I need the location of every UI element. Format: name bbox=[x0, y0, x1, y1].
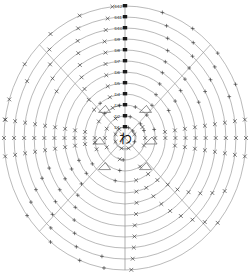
polar-chart-canvas: D1D2D3D4D5D6D7D8D9D10D11D12 わ bbox=[0, 0, 250, 276]
marker-+ bbox=[74, 245, 78, 249]
tick-marker-D2 bbox=[123, 114, 127, 117]
marker-x bbox=[127, 146, 131, 150]
marker-+ bbox=[167, 109, 171, 113]
marker-+ bbox=[209, 78, 213, 82]
tick-label-D1: D1 bbox=[115, 125, 121, 130]
marker-+ bbox=[234, 82, 238, 86]
marker-+ bbox=[90, 162, 94, 166]
marker-+ bbox=[113, 179, 117, 183]
marker-+ bbox=[63, 177, 67, 181]
marker-x bbox=[76, 39, 80, 43]
marker-x bbox=[47, 48, 51, 52]
marker-x bbox=[23, 62, 27, 66]
marker-x bbox=[105, 127, 109, 131]
marker-+ bbox=[197, 100, 201, 104]
marker-x bbox=[49, 32, 53, 36]
marker-+ bbox=[163, 60, 167, 64]
marker-x bbox=[210, 191, 214, 195]
marker-+ bbox=[100, 254, 104, 258]
tick-label-D9: D9 bbox=[115, 37, 121, 42]
marker-+ bbox=[73, 231, 77, 235]
tick-marker-D4 bbox=[123, 92, 127, 95]
marker-x bbox=[168, 209, 172, 213]
tick-label-D11: D11 bbox=[115, 15, 123, 20]
marker-x bbox=[203, 220, 207, 224]
polar-chart: D1D2D3D4D5D6D7D8D9D10D11D12 わ bbox=[0, 0, 250, 276]
marker-+ bbox=[203, 90, 207, 94]
tick-marker-D7 bbox=[123, 59, 127, 62]
marker-x bbox=[76, 51, 80, 55]
tick-marker-D5 bbox=[123, 81, 127, 84]
marker-x bbox=[156, 178, 160, 182]
marker-x bbox=[198, 191, 202, 195]
tick-label-D6: D6 bbox=[115, 70, 121, 75]
marker-+ bbox=[166, 49, 170, 53]
marker-x bbox=[104, 51, 108, 55]
marker-x bbox=[191, 218, 195, 222]
tick-marker-D1 bbox=[123, 125, 127, 128]
tick-marker-D9 bbox=[123, 37, 127, 40]
tick-marker-D3 bbox=[123, 103, 127, 106]
marker-x bbox=[223, 189, 227, 193]
marker-+ bbox=[118, 169, 122, 173]
tick-marker-D12 bbox=[123, 4, 127, 7]
marker-x bbox=[108, 95, 112, 99]
marker-x bbox=[92, 108, 96, 112]
marker-x bbox=[78, 14, 82, 18]
tick-label-D4: D4 bbox=[115, 92, 121, 97]
marker-x bbox=[187, 190, 191, 194]
marker-+ bbox=[34, 188, 38, 192]
marker-+ bbox=[102, 266, 106, 270]
grid-spoke-135 bbox=[39, 45, 125, 138]
marker-+ bbox=[213, 65, 217, 69]
marker-x bbox=[83, 87, 87, 91]
marker-x bbox=[141, 125, 145, 129]
grid-spoke-225 bbox=[39, 138, 125, 231]
marker-x bbox=[25, 79, 29, 83]
marker-+ bbox=[160, 11, 164, 15]
marker-x bbox=[146, 172, 150, 176]
marker-+ bbox=[173, 99, 177, 103]
tick-marker-D10 bbox=[123, 26, 127, 29]
marker-x bbox=[159, 202, 163, 206]
marker-+ bbox=[165, 24, 169, 28]
marker-x bbox=[216, 221, 220, 225]
marker-x bbox=[118, 157, 122, 161]
marker-+ bbox=[40, 176, 44, 180]
marker-+ bbox=[121, 158, 125, 162]
marker-x bbox=[55, 89, 59, 93]
marker-+ bbox=[227, 95, 231, 99]
marker-x bbox=[144, 186, 148, 190]
marker-x bbox=[7, 98, 11, 102]
center-label: わ bbox=[119, 131, 132, 146]
marker-+ bbox=[29, 200, 33, 204]
tick-label-D7: D7 bbox=[115, 59, 121, 64]
marker-x bbox=[51, 77, 55, 81]
marker-x bbox=[103, 40, 107, 44]
marker-x bbox=[120, 146, 124, 150]
marker-+ bbox=[25, 214, 29, 218]
marker-x bbox=[95, 147, 99, 151]
tick-marker-D8 bbox=[123, 48, 127, 51]
marker-+ bbox=[152, 128, 156, 132]
marker-x bbox=[166, 183, 170, 187]
marker-x bbox=[76, 26, 80, 30]
tick-label-D5: D5 bbox=[115, 81, 121, 86]
marker-x bbox=[105, 145, 109, 149]
tick-label-D8: D8 bbox=[115, 48, 121, 53]
marker-+ bbox=[70, 167, 74, 171]
marker-+ bbox=[58, 188, 62, 192]
marker-x bbox=[78, 63, 82, 67]
marker-x bbox=[97, 120, 101, 124]
marker-+ bbox=[142, 129, 146, 133]
tick-marker-D6 bbox=[123, 70, 127, 73]
marker-x bbox=[152, 194, 156, 198]
grid-spoke-45 bbox=[125, 45, 211, 138]
marker-+ bbox=[77, 158, 81, 162]
marker-+ bbox=[166, 36, 170, 40]
tick-label-D2: D2 bbox=[115, 114, 121, 119]
tick-label-D3: D3 bbox=[115, 103, 121, 108]
marker-+ bbox=[47, 166, 51, 170]
tick-label-D10: D10 bbox=[115, 26, 123, 31]
marker-+ bbox=[78, 258, 82, 262]
